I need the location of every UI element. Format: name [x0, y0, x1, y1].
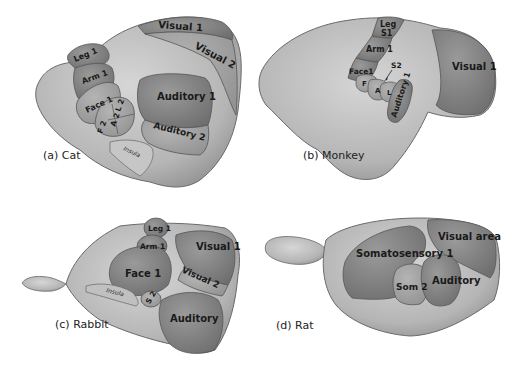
monkey-label-s2: S2	[391, 61, 402, 70]
rabbit-label-visual-1: Visual 1	[196, 241, 241, 252]
monkey-label-arm-1: Arm 1	[366, 45, 393, 54]
monkey-label-s1: S1	[381, 29, 393, 38]
panel-rat: Visual area Somatosensory 1 Som 2 Audito…	[265, 218, 501, 336]
rat-label-somatosensory-1: Somatosensory 1	[356, 248, 453, 259]
rat-label-auditory: Auditory	[432, 275, 481, 286]
monkey-label-f: F	[362, 80, 367, 88]
monkey-caption: (b) Monkey	[303, 149, 365, 162]
rabbit-label-auditory: Auditory	[170, 313, 219, 324]
monkey-visual-1-area	[432, 30, 495, 115]
figure-canvas: Visual 1 Visual 2 Leg 1 Arm 1 Face 1 L 2…	[0, 0, 513, 368]
brain-sensory-maps-figure: Visual 1 Visual 2 Leg 1 Arm 1 Face 1 L 2…	[0, 0, 513, 368]
cat-label-auditory-1: Auditory 1	[157, 91, 216, 102]
monkey-label-visual-1: Visual 1	[452, 61, 497, 72]
panel-monkey: Leg S1 Arm 1 Face1 S2 F A L Auditory 1 V…	[259, 17, 497, 180]
rabbit-label-arm-1: Arm 1	[140, 242, 165, 251]
rabbit-label-face-1: Face 1	[125, 268, 161, 279]
rat-caption: (d) Rat	[276, 319, 314, 332]
rabbit-label-leg-1: Leg 1	[148, 224, 171, 233]
rat-label-som-2: Som 2	[396, 282, 427, 292]
panel-rabbit: Leg 1 Arm 1 Face 1 Visual 1 Visual 2 Ins…	[22, 218, 241, 353]
monkey-label-face-1: Face1	[349, 67, 374, 76]
monkey-label-a: A	[375, 87, 381, 95]
rabbit-olfactory-bulb	[22, 276, 66, 291]
monkey-label-leg: Leg	[380, 20, 397, 29]
rat-label-visual-area: Visual area	[438, 231, 501, 242]
cat-caption: (a) Cat	[43, 149, 81, 162]
monkey-label-l: L	[387, 89, 392, 97]
panel-cat: Visual 1 Visual 2 Leg 1 Arm 1 Face 1 L 2…	[36, 17, 242, 187]
rabbit-caption: (c) Rabbit	[55, 318, 109, 331]
rat-olfactory-bulb	[265, 237, 326, 265]
